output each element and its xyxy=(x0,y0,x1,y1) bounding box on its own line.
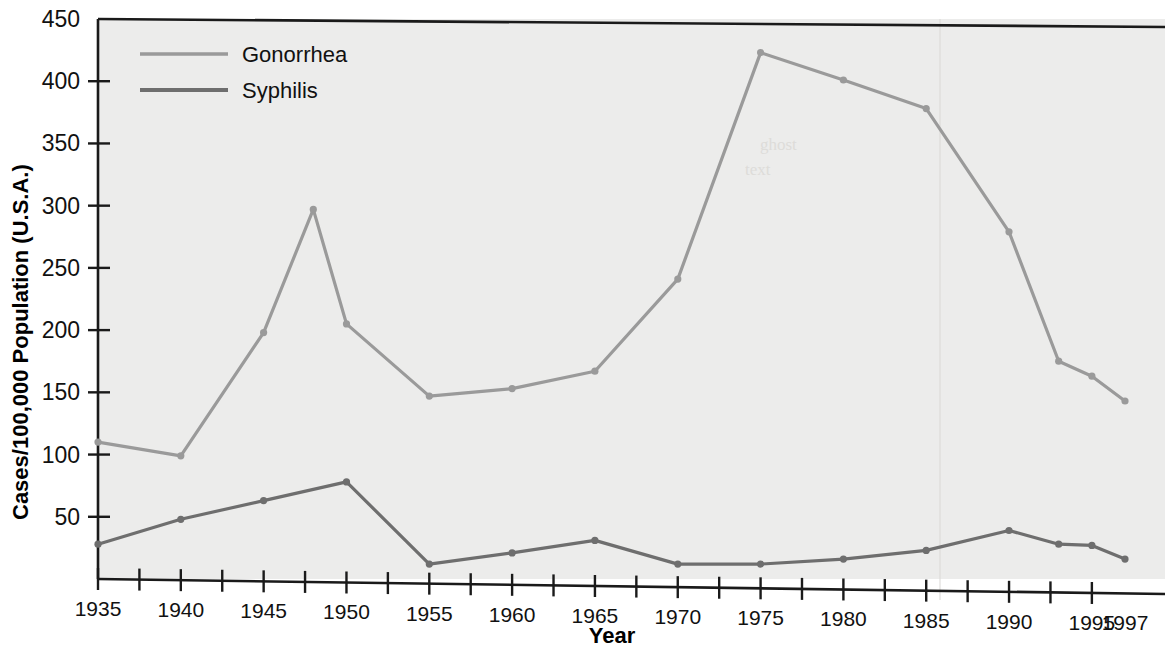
x-tick-label: 1955 xyxy=(406,602,453,625)
data-point-syphilis xyxy=(1121,556,1128,563)
data-point-gonorrhea xyxy=(1005,228,1012,235)
x-tick-label: 1940 xyxy=(157,598,204,621)
data-point-gonorrhea xyxy=(1121,397,1128,404)
data-point-gonorrhea xyxy=(343,320,350,327)
legend-label-gonorrhea: Gonorrhea xyxy=(242,42,348,67)
svg-text:ghost: ghost xyxy=(760,135,797,154)
data-point-gonorrhea xyxy=(508,385,515,392)
data-point-gonorrhea xyxy=(177,452,184,459)
data-point-syphilis xyxy=(343,478,350,485)
x-tick-label: 1960 xyxy=(489,603,536,626)
data-point-gonorrhea xyxy=(591,368,598,375)
svg-text:text: text xyxy=(745,160,771,179)
data-point-syphilis xyxy=(426,561,433,568)
y-tick-label: 50 xyxy=(54,504,80,530)
data-point-gonorrhea xyxy=(260,329,267,336)
y-axis-title: Cases/100,000 Population (U.S.A.) xyxy=(8,164,33,520)
data-point-gonorrhea xyxy=(94,439,101,446)
x-tick-label: 1945 xyxy=(240,599,287,622)
y-tick-label: 400 xyxy=(42,68,80,94)
data-point-syphilis xyxy=(674,561,681,568)
data-point-gonorrhea xyxy=(426,393,433,400)
data-point-gonorrhea xyxy=(674,276,681,283)
y-tick-label: 350 xyxy=(42,130,80,156)
data-point-syphilis xyxy=(1088,542,1095,549)
chart-container: ghost text 50100150200250300350400450 19… xyxy=(0,0,1165,648)
data-point-syphilis xyxy=(260,497,267,504)
data-point-syphilis xyxy=(1005,527,1012,534)
x-tick-label: 1935 xyxy=(75,597,122,620)
y-tick-label: 300 xyxy=(42,193,80,219)
x-tick-label: 1975 xyxy=(737,606,784,629)
data-point-syphilis xyxy=(591,537,598,544)
y-tick-label: 200 xyxy=(42,317,80,343)
x-axis-line xyxy=(98,579,1165,594)
plot-area-background xyxy=(98,19,1165,579)
x-tick-label: 1950 xyxy=(323,600,370,623)
x-tick-label: 1985 xyxy=(903,609,950,632)
data-point-syphilis xyxy=(757,561,764,568)
x-tick-label: 1997 xyxy=(1102,611,1149,634)
x-axis-title: Year xyxy=(589,623,636,648)
data-point-gonorrhea xyxy=(923,105,930,112)
data-point-syphilis xyxy=(177,516,184,523)
line-chart: ghost text 50100150200250300350400450 19… xyxy=(0,0,1165,648)
data-point-syphilis xyxy=(923,547,930,554)
x-tick-label: 1990 xyxy=(986,610,1033,633)
y-tick-label: 250 xyxy=(42,255,80,281)
data-point-gonorrhea xyxy=(757,49,764,56)
data-point-syphilis xyxy=(94,541,101,548)
y-tick-label: 100 xyxy=(42,442,80,468)
data-point-gonorrhea xyxy=(1088,373,1095,380)
data-point-syphilis xyxy=(508,549,515,556)
legend-label-syphilis: Syphilis xyxy=(242,78,318,103)
x-tick-label: 1970 xyxy=(654,605,701,628)
x-tick-label: 1980 xyxy=(820,607,867,630)
y-tick-label: 450 xyxy=(42,6,80,32)
data-point-gonorrhea xyxy=(840,76,847,83)
y-tick-label: 150 xyxy=(42,379,80,405)
data-point-syphilis xyxy=(1055,541,1062,548)
data-point-syphilis xyxy=(840,556,847,563)
data-point-gonorrhea xyxy=(1055,358,1062,365)
data-point-gonorrhea xyxy=(310,206,317,213)
